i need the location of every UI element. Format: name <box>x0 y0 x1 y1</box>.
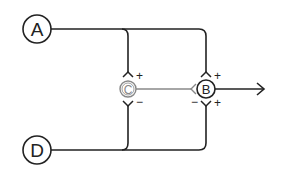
b-right-bottom-sign: + <box>214 96 221 110</box>
edge-a-to-c <box>122 29 128 72</box>
node-b-label: B <box>202 82 211 97</box>
node-b[interactable]: B <box>197 80 215 98</box>
node-a[interactable]: A <box>23 15 51 43</box>
node-d-label: D <box>30 140 44 161</box>
node-c-label: C <box>124 83 133 97</box>
b-top-input-chevron <box>201 72 211 77</box>
edge-b-output-arrow <box>215 83 264 95</box>
b-left-bottom-sign: − <box>191 95 198 109</box>
b-top-sign: + <box>214 69 221 83</box>
node-c[interactable]: C <box>120 81 136 97</box>
c-bottom-input-chevron <box>123 101 133 106</box>
edge-c-to-b <box>136 84 196 94</box>
node-a-label: A <box>31 19 44 40</box>
c-top-sign: + <box>136 69 143 83</box>
c-top-input-chevron <box>123 72 133 77</box>
circuit-diagram: A D C B + − + − + <box>0 0 282 174</box>
edge-d-to-c <box>122 106 128 150</box>
c-bottom-sign: − <box>136 95 143 109</box>
b-bottom-input-chevron <box>201 101 211 106</box>
node-d[interactable]: D <box>23 136 51 164</box>
